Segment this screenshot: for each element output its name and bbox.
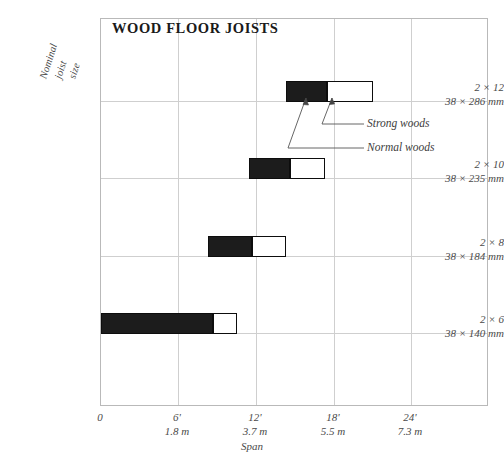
annotation-label-normal-woods: Normal woods bbox=[367, 141, 434, 153]
y-axis-caption: Nominal joist size bbox=[44, 14, 102, 80]
chart-canvas: WOOD FLOOR JOISTS Nominal joist size 2 ×… bbox=[0, 0, 504, 470]
bar-2x8[interactable] bbox=[208, 236, 286, 257]
y-axis-label-2x6-metric: 38 × 140 mm bbox=[408, 327, 504, 341]
bar-2x8-normal-woods bbox=[208, 236, 252, 257]
x-axis-tick-24ft: 24' 7.3 m bbox=[375, 410, 445, 438]
x-axis-tick-0: 0 bbox=[65, 410, 135, 424]
gridline-vertical-12ft bbox=[256, 19, 257, 405]
x-axis-tick-0-feet: 0 bbox=[65, 410, 135, 424]
y-axis-label-2x8-metric: 38 × 184 mm bbox=[408, 250, 504, 264]
gridline-vertical-6ft bbox=[178, 19, 179, 405]
x-axis-tick-24ft-meters: 7.3 m bbox=[375, 424, 445, 438]
gridline-vertical-24ft bbox=[411, 19, 412, 405]
x-axis-tick-18ft-meters: 5.5 m bbox=[298, 424, 368, 438]
y-axis-label-2x10-size: 2 × 10 bbox=[408, 158, 504, 172]
y-axis-label-2x10: 2 × 10 38 × 235 mm bbox=[408, 158, 504, 185]
plot-area bbox=[100, 18, 488, 406]
y-axis-label-2x12-metric: 38 × 286 mm bbox=[408, 95, 504, 109]
chart-title: WOOD FLOOR JOISTS bbox=[112, 20, 279, 37]
x-axis-caption: Span bbox=[0, 440, 504, 452]
y-axis-label-2x8-size: 2 × 8 bbox=[408, 236, 504, 250]
y-axis-label-2x8: 2 × 8 38 × 184 mm bbox=[408, 236, 504, 263]
gridline-vertical-18ft bbox=[334, 19, 335, 405]
x-axis-tick-6ft: 6' 1.8 m bbox=[142, 410, 212, 438]
x-axis-tick-12ft-meters: 3.7 m bbox=[220, 424, 290, 438]
bar-2x12[interactable] bbox=[286, 81, 373, 102]
bar-2x12-strong-woods bbox=[327, 81, 373, 102]
y-axis-label-2x12-size: 2 × 12 bbox=[408, 81, 504, 95]
y-axis-caption-line-2: joist bbox=[53, 59, 69, 80]
y-axis-label-2x6: 2 × 6 38 × 140 mm bbox=[408, 313, 504, 340]
y-axis-label-2x6-size: 2 × 6 bbox=[408, 313, 504, 327]
x-axis-tick-6ft-meters: 1.8 m bbox=[142, 424, 212, 438]
x-axis-tick-12ft-feet: 12' bbox=[220, 410, 290, 424]
x-axis-tick-6ft-feet: 6' bbox=[142, 410, 212, 424]
x-axis-tick-12ft: 12' 3.7 m bbox=[220, 410, 290, 438]
x-axis-tick-18ft-feet: 18' bbox=[298, 410, 368, 424]
y-axis-caption-line-3: size bbox=[67, 62, 82, 80]
x-axis-tick-24ft-feet: 24' bbox=[375, 410, 445, 424]
bar-2x6-normal-woods bbox=[101, 313, 213, 334]
bar-2x12-normal-woods bbox=[286, 81, 327, 102]
x-axis-tick-18ft: 18' 5.5 m bbox=[298, 410, 368, 438]
y-axis-label-2x12: 2 × 12 38 × 286 mm bbox=[408, 81, 504, 108]
bar-2x10-normal-woods bbox=[249, 158, 290, 179]
bar-2x8-strong-woods bbox=[252, 236, 286, 257]
bar-2x10[interactable] bbox=[249, 158, 325, 179]
bar-2x6[interactable] bbox=[101, 313, 237, 334]
annotation-label-strong-woods: Strong woods bbox=[367, 117, 430, 129]
bar-2x10-strong-woods bbox=[290, 158, 325, 179]
bar-2x6-strong-woods bbox=[213, 313, 237, 334]
y-axis-label-2x10-metric: 38 × 235 mm bbox=[408, 172, 504, 186]
